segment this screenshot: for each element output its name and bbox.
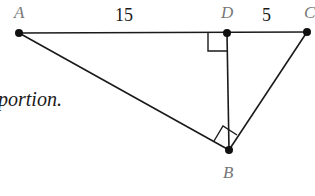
right-angle-marker-B — [214, 126, 237, 141]
segment-DB — [227, 33, 229, 150]
segment-BC — [229, 32, 307, 150]
label-B: B — [223, 163, 234, 182]
length-DC: 5 — [262, 5, 271, 25]
point-A — [15, 29, 23, 37]
label-C: C — [304, 3, 315, 22]
label-D: D — [220, 3, 234, 22]
length-AD: 15 — [115, 5, 133, 25]
point-D — [223, 29, 231, 37]
caption-fragment: portion. — [0, 88, 62, 111]
label-A: A — [13, 3, 25, 22]
point-B — [225, 146, 233, 154]
segment-AC — [19, 32, 307, 33]
point-C — [303, 28, 311, 36]
geometry-figure: portion. A D C B 15 5 — [0, 0, 315, 196]
